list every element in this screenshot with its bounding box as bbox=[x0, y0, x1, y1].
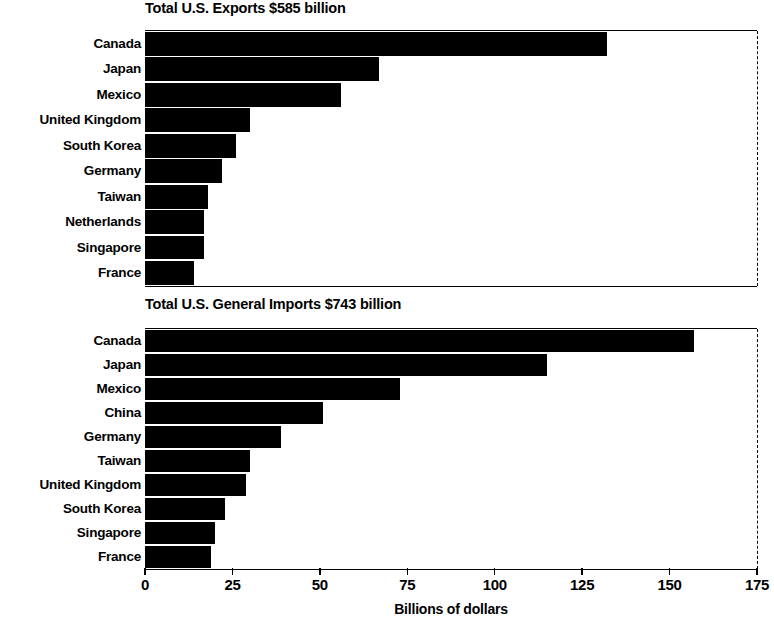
x-axis-tick-label: 0 bbox=[141, 576, 149, 593]
figure-root: Total U.S. Exports $585 billion CanadaJa… bbox=[0, 0, 774, 631]
bar-row: Taiwan bbox=[145, 185, 757, 209]
bar bbox=[145, 134, 236, 158]
bar-row: Singapore bbox=[145, 522, 757, 544]
chart-exports-title: Total U.S. Exports $585 billion bbox=[145, 0, 346, 16]
bar bbox=[145, 261, 194, 285]
bar-row: Netherlands bbox=[145, 210, 757, 234]
x-axis-tick-label: 25 bbox=[224, 576, 240, 593]
bar-row: Taiwan bbox=[145, 450, 757, 472]
x-axis-tick bbox=[144, 568, 145, 575]
category-label: Japan bbox=[103, 358, 141, 372]
x-axis-tick bbox=[581, 568, 582, 575]
category-label: Taiwan bbox=[97, 454, 141, 468]
chart-exports: Total U.S. Exports $585 billion CanadaJa… bbox=[0, 0, 774, 290]
category-label: South Korea bbox=[63, 502, 141, 516]
x-axis-tick-label: 75 bbox=[399, 576, 415, 593]
category-label: United Kingdom bbox=[40, 478, 141, 492]
x-axis-tick bbox=[494, 568, 495, 575]
plot-right-edge bbox=[757, 31, 758, 286]
bar bbox=[145, 474, 246, 496]
bar bbox=[145, 185, 208, 209]
bar bbox=[145, 378, 400, 400]
bar-row: China bbox=[145, 402, 757, 424]
x-axis-tick-label: 175 bbox=[745, 576, 769, 593]
bar bbox=[145, 108, 250, 132]
bar bbox=[145, 498, 225, 520]
bar bbox=[145, 57, 379, 81]
x-axis-tick-label: 100 bbox=[483, 576, 507, 593]
category-label: France bbox=[98, 266, 141, 280]
bar-row: United Kingdom bbox=[145, 108, 757, 132]
bar bbox=[145, 83, 341, 107]
bar-row: Singapore bbox=[145, 236, 757, 260]
bar bbox=[145, 450, 250, 472]
plot-right-edge bbox=[757, 329, 758, 569]
bar-row: France bbox=[145, 546, 757, 568]
bar bbox=[145, 426, 281, 448]
category-label: Mexico bbox=[96, 382, 141, 396]
bar-row: South Korea bbox=[145, 134, 757, 158]
category-label: South Korea bbox=[63, 139, 141, 153]
chart-exports-plot-area: CanadaJapanMexicoUnited KingdomSouth Kor… bbox=[145, 30, 757, 287]
x-axis: 0255075100125150175 Billions of dollars bbox=[145, 568, 757, 631]
bar bbox=[145, 402, 323, 424]
x-axis-tick bbox=[407, 568, 408, 575]
x-axis-title: Billions of dollars bbox=[145, 601, 757, 617]
category-label: Mexico bbox=[96, 88, 141, 102]
chart-imports: Total U.S. General Imports $743 billion … bbox=[0, 296, 774, 576]
bar-row: Germany bbox=[145, 159, 757, 183]
category-label: Canada bbox=[93, 37, 141, 51]
bar bbox=[145, 210, 204, 234]
bar-row: Canada bbox=[145, 32, 757, 56]
chart-imports-title: Total U.S. General Imports $743 billion bbox=[145, 296, 401, 312]
x-axis-tick-label: 50 bbox=[312, 576, 328, 593]
category-label: China bbox=[104, 406, 141, 420]
bar bbox=[145, 522, 215, 544]
category-label: Netherlands bbox=[65, 215, 141, 229]
bar bbox=[145, 546, 211, 568]
category-label: Singapore bbox=[77, 526, 141, 540]
bar bbox=[145, 32, 607, 56]
x-axis-tick bbox=[232, 568, 233, 575]
x-axis-tick bbox=[756, 568, 757, 575]
category-label: Japan bbox=[103, 63, 141, 77]
chart-exports-bar-rows: CanadaJapanMexicoUnited KingdomSouth Kor… bbox=[145, 31, 757, 286]
bar bbox=[145, 159, 222, 183]
bar-row: Mexico bbox=[145, 378, 757, 400]
bar-row: South Korea bbox=[145, 498, 757, 520]
category-label: Taiwan bbox=[97, 190, 141, 204]
bar-row: Mexico bbox=[145, 83, 757, 107]
bar bbox=[145, 354, 547, 376]
bar-row: Germany bbox=[145, 426, 757, 448]
bar bbox=[145, 236, 204, 260]
bar-row: United Kingdom bbox=[145, 474, 757, 496]
bar bbox=[145, 330, 694, 352]
category-label: Canada bbox=[93, 334, 141, 348]
bar-row: Japan bbox=[145, 354, 757, 376]
bar-row: Canada bbox=[145, 330, 757, 352]
x-axis-tick bbox=[319, 568, 320, 575]
category-label: France bbox=[98, 550, 141, 564]
category-label: United Kingdom bbox=[40, 114, 141, 128]
x-axis-tick-label: 150 bbox=[657, 576, 681, 593]
category-label: Singapore bbox=[77, 241, 141, 255]
bar-row: France bbox=[145, 261, 757, 285]
category-label: Germany bbox=[84, 430, 141, 444]
chart-imports-bar-rows: CanadaJapanMexicoChinaGermanyTaiwanUnite… bbox=[145, 329, 757, 569]
category-label: Germany bbox=[84, 164, 141, 178]
x-axis-tick-label: 125 bbox=[570, 576, 594, 593]
chart-imports-plot-area: CanadaJapanMexicoChinaGermanyTaiwanUnite… bbox=[145, 328, 757, 570]
bar-row: Japan bbox=[145, 57, 757, 81]
x-axis-tick bbox=[669, 568, 670, 575]
